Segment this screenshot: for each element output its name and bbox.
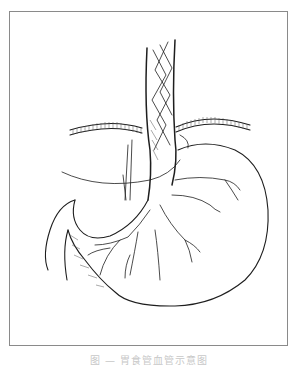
figure-caption: 图 — 胃食管血管示意图 [0,352,298,367]
stomach [45,144,268,306]
diaphragm-left [70,122,142,135]
diaphragm-right [176,117,250,132]
